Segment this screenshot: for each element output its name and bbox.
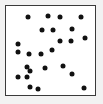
data-point — [57, 14, 62, 19]
data-point — [15, 49, 20, 54]
data-point — [40, 27, 45, 32]
data-points-layer — [6, 6, 95, 95]
data-point — [60, 63, 65, 68]
data-point — [25, 14, 30, 19]
data-point — [43, 65, 48, 70]
data-point — [39, 51, 44, 56]
data-point — [15, 75, 20, 80]
data-point — [36, 87, 41, 92]
data-point — [27, 68, 32, 73]
data-point — [83, 36, 88, 41]
data-point — [26, 51, 31, 56]
data-point — [24, 75, 29, 80]
data-point — [57, 39, 62, 44]
data-point — [46, 13, 51, 18]
data-point — [79, 14, 84, 19]
scatter-plot-figure — [0, 0, 103, 104]
data-point — [82, 86, 87, 91]
plot-frame — [5, 5, 96, 96]
data-point — [49, 48, 54, 53]
data-point — [70, 72, 75, 77]
data-point — [70, 26, 75, 31]
data-point — [27, 85, 32, 90]
data-point — [68, 39, 73, 44]
data-point — [15, 42, 20, 47]
data-point — [50, 28, 55, 33]
